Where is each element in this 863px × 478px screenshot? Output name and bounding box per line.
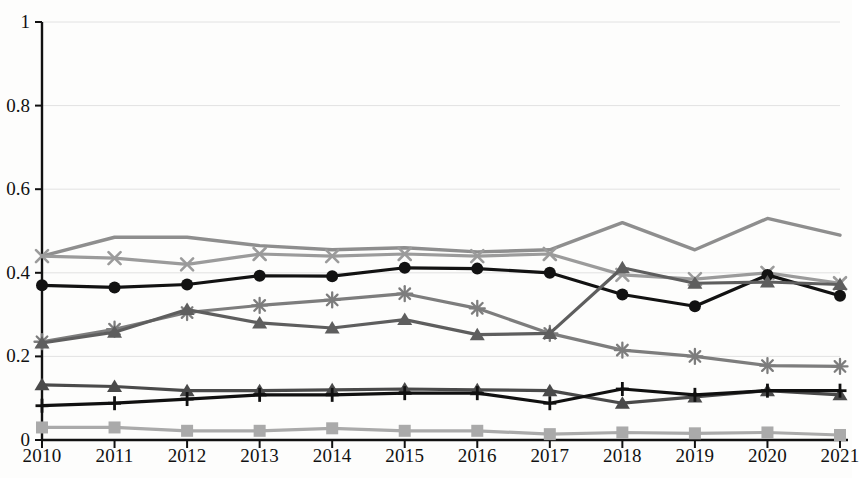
x-axis-tick-label: 2019 [660, 446, 730, 466]
x-axis-tick-label: 2010 [7, 446, 77, 466]
x-axis-tick-label: 2020 [732, 446, 802, 466]
x-axis-tick-label: 2016 [442, 446, 512, 466]
x-axis-tick-label: 2021 [805, 446, 863, 466]
x-axis-tick-label: 2011 [80, 446, 150, 466]
x-axis-tick-label: 2017 [515, 446, 585, 466]
x-axis-tick-label: 2012 [152, 446, 222, 466]
x-axis-tick-label: 2015 [370, 446, 440, 466]
x-axis-tick-label: 2014 [297, 446, 367, 466]
x-axis-tick-label: 2018 [587, 446, 657, 466]
x-axis-tick-label: 2013 [225, 446, 295, 466]
